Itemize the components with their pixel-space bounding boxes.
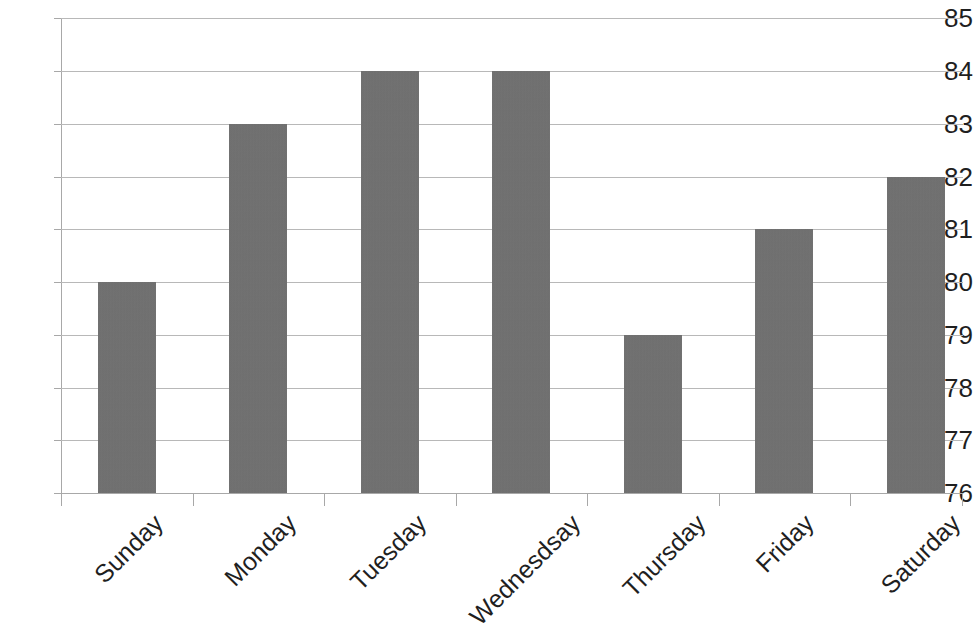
bar-friday — [755, 229, 813, 493]
bar-wednesdsay — [492, 71, 550, 493]
bar-tuesday — [361, 71, 419, 493]
x-tick-mark — [587, 494, 588, 506]
x-tick-mark — [850, 494, 851, 506]
bar-chart: 85 84 83 82 81 80 79 78 77 76 — [0, 0, 973, 623]
bar-monday — [229, 124, 287, 493]
y-tick-mark — [54, 124, 61, 125]
y-tick-mark — [54, 71, 61, 72]
bar-saturday — [887, 177, 945, 493]
bar-sunday — [98, 282, 156, 493]
x-tick-label-friday: Friday — [751, 510, 818, 577]
y-tick-mark — [54, 282, 61, 283]
y-tick-mark — [54, 18, 61, 19]
y-tick-mark — [54, 388, 61, 389]
y-tick-mark — [54, 229, 61, 230]
gridline-76-baseline — [61, 493, 963, 494]
bar-thursday — [624, 335, 682, 493]
gridline-85 — [61, 18, 963, 19]
x-tick-label-thursday: Thursday — [618, 510, 709, 601]
x-tick-label-sunday: Sunday — [90, 510, 168, 588]
plot-area — [61, 18, 963, 493]
x-tick-label-tuesday: Tuesday — [346, 510, 431, 595]
y-tick-mark — [54, 335, 61, 336]
y-tick-mark — [54, 177, 61, 178]
x-tick-label-wednesdsay: Wednesdsay — [465, 510, 585, 623]
x-tick-mark — [324, 494, 325, 506]
x-tick-mark — [719, 494, 720, 506]
x-tick-mark — [962, 494, 963, 506]
y-tick-mark — [54, 440, 61, 441]
x-tick-label-saturday: Saturday — [876, 510, 964, 598]
x-tick-label-monday: Monday — [220, 510, 301, 591]
x-tick-mark — [456, 494, 457, 506]
x-tick-mark — [61, 494, 62, 506]
x-tick-mark — [193, 494, 194, 506]
y-tick-mark — [54, 493, 61, 494]
